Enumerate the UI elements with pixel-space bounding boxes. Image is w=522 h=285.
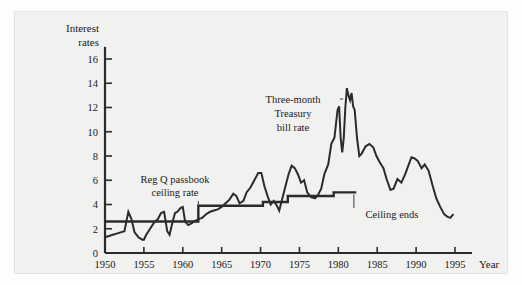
x-tick-label-1985: 1985: [367, 259, 388, 270]
x-tick-label-1965: 1965: [211, 259, 232, 270]
x-tick-label-1990: 1990: [406, 259, 427, 270]
x-tick-label-1950: 1950: [95, 259, 116, 270]
y-tick-label-4: 4: [93, 199, 99, 210]
x-tick-label-1970: 1970: [250, 259, 271, 270]
x-tick-label-1955: 1955: [133, 259, 154, 270]
y-tick-label-2: 2: [93, 224, 98, 235]
x-tick-label-1980: 1980: [328, 259, 349, 270]
y-tick-label-12: 12: [88, 102, 99, 113]
y-tick-label-0: 0: [93, 248, 98, 259]
y-tick-label-6: 6: [93, 175, 98, 186]
y-tick-label-8: 8: [93, 151, 98, 162]
tbill-annotation-line3: bill rate: [277, 122, 310, 133]
reg-q-annotation-line2: ceiling rate: [152, 187, 199, 198]
y-tick-label-10: 10: [88, 127, 99, 138]
y-axis-title-line1: Interest: [66, 22, 99, 34]
reg-q-annotation-line1: Reg Q passbook: [141, 174, 211, 185]
ceiling-ends-annotation-line1: Ceiling ends: [366, 209, 419, 220]
y-tick-label-14: 14: [88, 78, 99, 89]
x-tick-label-1995: 1995: [445, 259, 466, 270]
tbill-annotation-line1: Three-month: [266, 94, 322, 105]
chart-plot: 0246810121416195019551960196519701975198…: [0, 0, 522, 285]
y-axis-title-line2: rates: [78, 36, 99, 48]
chart-figure: 0246810121416195019551960196519701975198…: [0, 0, 522, 285]
x-tick-label-1960: 1960: [172, 259, 193, 270]
x-axis-title: Year: [479, 258, 500, 270]
tbill-annotation-line2: Treasury: [275, 108, 313, 119]
y-tick-label-16: 16: [88, 54, 99, 65]
axis-labels-group: InterestratesYear: [66, 22, 500, 270]
x-tick-label-1975: 1975: [289, 259, 310, 270]
